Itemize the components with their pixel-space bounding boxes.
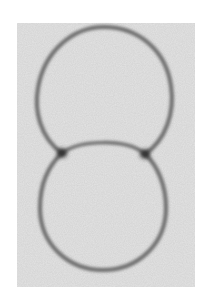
right-contact-point (140, 150, 150, 159)
left-contact-point (57, 149, 67, 158)
vesicle-doublet-image (0, 0, 211, 303)
image-noise (17, 23, 195, 287)
